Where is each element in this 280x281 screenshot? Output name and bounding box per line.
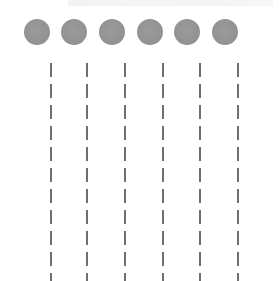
dashed-line-6 [237,63,239,281]
dashed-line-4 [162,63,164,281]
dot-2 [61,19,87,45]
dashed-line-3 [124,63,126,281]
dashed-line-2 [86,63,88,281]
dot-6 [212,19,238,45]
dot-3 [99,19,125,45]
dot-1 [24,19,50,45]
dashed-line-1 [50,63,52,281]
dot-5 [174,19,200,45]
faint-header-strip [68,0,273,6]
dashed-line-5 [199,63,201,281]
dot-4 [137,19,163,45]
